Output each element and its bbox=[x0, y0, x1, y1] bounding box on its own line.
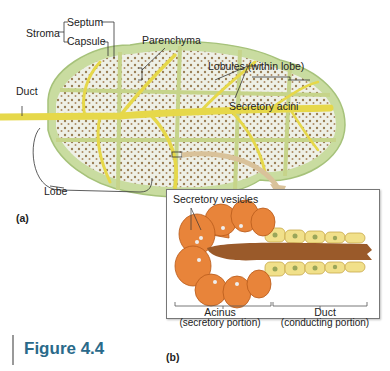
label-duct-a: Duct bbox=[16, 86, 38, 97]
label-parenchyma: Parenchyma bbox=[142, 35, 201, 46]
label-capsule: Capsule bbox=[67, 36, 106, 47]
label-lobe: Lobe bbox=[44, 186, 67, 197]
label-secretory-vesicles: Secretory vesicles bbox=[173, 194, 258, 205]
label-secretory-acini: Secretory acini bbox=[229, 101, 298, 112]
panel-b-label: (b) bbox=[166, 352, 179, 363]
label-stroma: Stroma bbox=[26, 28, 60, 39]
label-acinus: Acinus bbox=[168, 307, 272, 318]
label-lobules: Lobules (within lobe) bbox=[208, 61, 304, 72]
figure-divider bbox=[12, 335, 14, 365]
acinus-illustration bbox=[167, 190, 379, 318]
label-septum: Septum bbox=[67, 17, 103, 28]
panel-b-frame: Secretory vesicles bbox=[166, 189, 380, 319]
label-acinus-sub: (secretory portion) bbox=[168, 318, 272, 328]
label-duct-sub: (conducting portion) bbox=[272, 318, 378, 328]
figure-title: Figure 4.4 bbox=[24, 339, 104, 359]
panel-a-label: (a) bbox=[16, 213, 29, 224]
label-duct-b: Duct bbox=[272, 307, 378, 318]
